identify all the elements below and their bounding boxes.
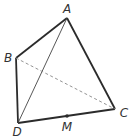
label-D: D bbox=[12, 125, 21, 139]
edge-AB bbox=[16, 18, 67, 58]
edge-AD bbox=[18, 18, 67, 123]
edge-BD bbox=[16, 58, 18, 123]
label-M: M bbox=[62, 120, 73, 134]
edge-AC bbox=[67, 18, 115, 109]
tetrahedron-diagram: A B C D M bbox=[0, 0, 137, 140]
edge-BC-hidden bbox=[16, 58, 115, 109]
label-C: C bbox=[120, 106, 129, 120]
point-M-marker bbox=[65, 114, 69, 118]
label-A: A bbox=[62, 2, 71, 16]
label-B: B bbox=[4, 51, 12, 65]
